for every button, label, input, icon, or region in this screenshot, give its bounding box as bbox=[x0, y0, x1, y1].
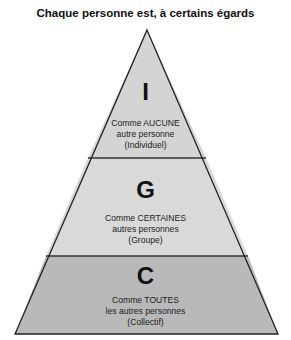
level-text-line: Comme TOUTES bbox=[0, 295, 291, 306]
level-text-line: autres personnes bbox=[0, 224, 291, 235]
level-text-line: (Collectif) bbox=[0, 317, 291, 328]
level-letter-collective: C bbox=[0, 262, 291, 290]
level-text-line: Comme CERTAINES bbox=[0, 213, 291, 224]
level-letter-individual: I bbox=[0, 78, 291, 106]
level-text-line: (Groupe) bbox=[0, 235, 291, 246]
level-text-group: Comme CERTAINES autres personnes (Groupe… bbox=[0, 213, 291, 246]
level-letter-group: G bbox=[0, 176, 291, 204]
level-text-line: Comme AUCUNE bbox=[0, 118, 291, 129]
level-text-line: autre personne bbox=[0, 129, 291, 140]
level-text-line: les autres personnes bbox=[0, 306, 291, 317]
level-text-collective: Comme TOUTES les autres personnes (Colle… bbox=[0, 295, 291, 328]
level-text-line: (Individuel) bbox=[0, 140, 291, 151]
level-text-individual: Comme AUCUNE autre personne (Individuel) bbox=[0, 118, 291, 151]
